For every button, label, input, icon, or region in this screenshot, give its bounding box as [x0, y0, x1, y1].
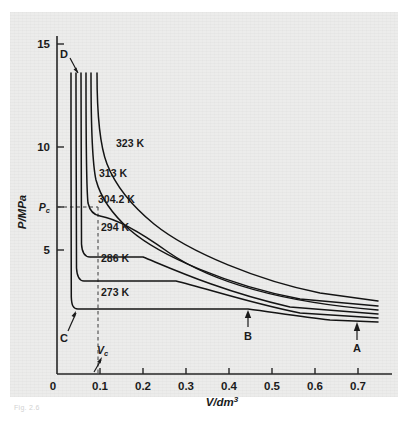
- annotation-C: C: [60, 311, 76, 344]
- y-tick-label-15: 15: [37, 38, 50, 50]
- annotation-B-label: B: [244, 330, 252, 342]
- annotation-D-label: D: [60, 48, 68, 60]
- y-tick-label-5: 5: [44, 244, 51, 256]
- annotation-C-label: C: [60, 332, 68, 344]
- x-tick-label-0.5: 0.5: [264, 380, 281, 392]
- x-tick-label-0.1: 0.1: [92, 380, 109, 392]
- x-tick-label-0.7: 0.7: [350, 380, 366, 392]
- isotherm-curve-323K: [97, 73, 378, 301]
- x-axis-title: V/dm3: [206, 395, 239, 408]
- x-axis-title-exponent: 3: [234, 395, 239, 404]
- y-tick-labels: 15 10 5 Pc: [37, 38, 51, 256]
- annotation-Vc: Vc: [94, 344, 109, 372]
- annotation-D-arrowhead: [74, 68, 79, 74]
- critical-volume-label: Vc: [97, 344, 109, 358]
- annotation-D: D: [60, 48, 78, 73]
- x-axis-title-main: V/dm: [206, 396, 234, 408]
- x-tick-labels: 0 0.1 0.2 0.3 0.4 0.5 0.6 0.7: [50, 380, 366, 392]
- pv-isotherm-chart: 15 10 5 Pc 0 0.1 0.2 0.3 0.4 0.5 0.6 0.7…: [0, 0, 408, 423]
- x-tick-label-0.4: 0.4: [221, 380, 238, 392]
- x-tick-label-0.3: 0.3: [178, 380, 194, 392]
- isotherm-curve-304.2K: [86, 73, 378, 310]
- curve-label-323K: 323 K: [116, 137, 144, 149]
- y-axis-title: P/MPa: [16, 194, 28, 229]
- x-tick-label-0: 0: [50, 380, 56, 392]
- curve-label-313K: 313 K: [99, 167, 127, 179]
- x-tick-label-0.6: 0.6: [307, 380, 323, 392]
- annotation-B-arrowhead: [245, 310, 251, 318]
- y-tick-label-10: 10: [37, 141, 50, 153]
- annotation-B: B: [244, 310, 252, 342]
- x-tick-label-0.2: 0.2: [135, 380, 151, 392]
- curve-label-286K: 286 K: [101, 252, 129, 264]
- critical-pressure-label: Pc: [39, 201, 51, 215]
- figure-caption: Fig. 2.6: [14, 404, 40, 411]
- annotation-C-arrowhead: [72, 311, 77, 318]
- curve-label-294K: 294 K: [101, 221, 129, 233]
- curve-label-273K: 273 K: [101, 286, 129, 298]
- isotherm-curve-313K: [91, 73, 378, 306]
- annotation-A-arrowhead: [354, 322, 360, 331]
- figure-panel: 15 10 5 Pc 0 0.1 0.2 0.3 0.4 0.5 0.6 0.7…: [0, 0, 408, 423]
- annotation-A-label: A: [353, 342, 361, 354]
- annotation-A: A: [353, 322, 361, 354]
- curve-label-304.2K: 304.2 K: [98, 193, 135, 205]
